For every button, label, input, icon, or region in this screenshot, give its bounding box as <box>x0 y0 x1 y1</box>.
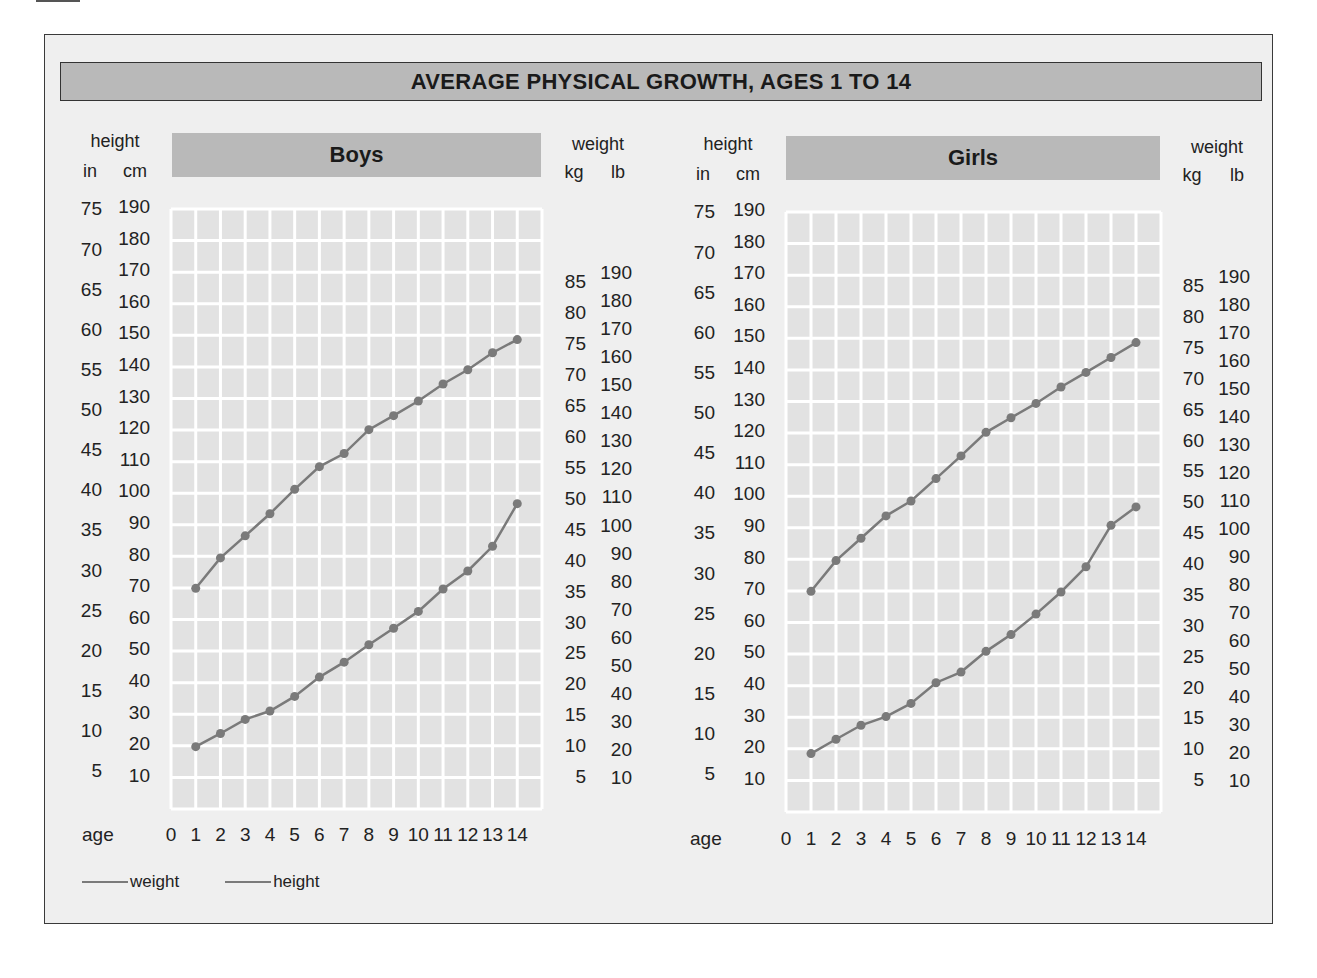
lb-tick: 180 <box>1216 295 1250 315</box>
cm-tick: 140 <box>727 358 765 378</box>
in-tick: 40 <box>689 483 715 503</box>
lb-tick: 80 <box>1216 575 1250 595</box>
boys-lb-unit: lb <box>606 162 630 183</box>
age-tick: 2 <box>824 828 848 850</box>
cm-tick: 30 <box>727 706 765 726</box>
age-tick: 13 <box>481 824 505 846</box>
kg-tick: 30 <box>560 613 586 633</box>
cm-tick: 50 <box>727 642 765 662</box>
in-tick: 35 <box>76 520 102 540</box>
cm-tick: 160 <box>727 295 765 315</box>
kg-tick: 25 <box>560 643 586 663</box>
weight-point <box>807 749 816 758</box>
weight-point <box>364 640 373 649</box>
boys-height-axis-title: height <box>80 131 150 152</box>
cm-tick: 110 <box>727 453 765 473</box>
weight-point <box>216 729 225 738</box>
lb-tick: 120 <box>1216 463 1250 483</box>
cm-tick: 10 <box>727 769 765 789</box>
age-tick: 4 <box>258 824 282 846</box>
cm-tick: 140 <box>112 355 150 375</box>
kg-tick: 50 <box>560 489 586 509</box>
in-tick: 35 <box>689 523 715 543</box>
height-point <box>832 556 841 565</box>
age-tick: 12 <box>456 824 480 846</box>
kg-tick: 15 <box>560 705 586 725</box>
age-tick: 12 <box>1074 828 1098 850</box>
in-tick: 30 <box>689 564 715 584</box>
in-tick: 20 <box>689 644 715 664</box>
in-tick: 5 <box>76 761 102 781</box>
kg-tick: 65 <box>560 396 586 416</box>
girls-header: Girls <box>786 136 1160 180</box>
height-point <box>1132 338 1141 347</box>
cm-tick: 90 <box>727 516 765 536</box>
lb-tick: 50 <box>598 656 632 676</box>
age-tick: 8 <box>974 828 998 850</box>
kg-tick: 50 <box>1178 492 1204 512</box>
lb-tick: 70 <box>598 600 632 620</box>
lb-tick: 90 <box>1216 547 1250 567</box>
weight-point <box>513 499 522 508</box>
height-point <box>265 509 274 518</box>
cm-tick: 100 <box>112 481 150 501</box>
age-tick: 3 <box>233 824 257 846</box>
kg-tick: 70 <box>1178 369 1204 389</box>
age-tick: 1 <box>799 828 823 850</box>
weight-point <box>1107 521 1116 530</box>
lb-tick: 20 <box>598 740 632 760</box>
height-point <box>513 335 522 344</box>
height-point <box>414 397 423 406</box>
height-point <box>1032 399 1041 408</box>
cm-tick: 120 <box>727 421 765 441</box>
age-tick: 10 <box>406 824 430 846</box>
cm-tick: 90 <box>112 513 150 533</box>
weight-point <box>389 624 398 633</box>
weight-point <box>315 673 324 682</box>
cm-tick: 70 <box>112 576 150 596</box>
in-tick: 50 <box>689 403 715 423</box>
kg-tick: 60 <box>1178 431 1204 451</box>
height-point <box>216 553 225 562</box>
height-point <box>1007 413 1016 422</box>
kg-tick: 75 <box>1178 338 1204 358</box>
age-tick: 13 <box>1099 828 1123 850</box>
kg-tick: 45 <box>560 520 586 540</box>
cm-tick: 70 <box>727 579 765 599</box>
lb-tick: 40 <box>598 684 632 704</box>
kg-tick: 75 <box>560 334 586 354</box>
weight-point <box>982 647 991 656</box>
cm-tick: 80 <box>112 545 150 565</box>
age-tick: 7 <box>332 824 356 846</box>
boys-cm-unit: cm <box>118 161 152 182</box>
cm-tick: 180 <box>727 232 765 252</box>
kg-tick: 35 <box>560 582 586 602</box>
in-tick: 25 <box>689 604 715 624</box>
weight-point <box>463 566 472 575</box>
kg-tick: 40 <box>1178 554 1204 574</box>
lb-tick: 50 <box>1216 659 1250 679</box>
girls-weight-axis-title: weight <box>1181 137 1253 158</box>
boys-in-unit: in <box>76 161 104 182</box>
weight-point <box>290 692 299 701</box>
height-point <box>463 365 472 374</box>
cm-tick: 160 <box>112 292 150 312</box>
height-point <box>488 348 497 357</box>
girls-in-unit: in <box>689 164 717 185</box>
cm-tick: 130 <box>112 387 150 407</box>
in-tick: 15 <box>76 681 102 701</box>
lb-tick: 100 <box>598 516 632 536</box>
kg-tick: 85 <box>1178 276 1204 296</box>
height-point <box>389 411 398 420</box>
legend-height-label: height <box>273 872 319 892</box>
lb-tick: 30 <box>1216 715 1250 735</box>
in-tick: 25 <box>76 601 102 621</box>
age-tick: 6 <box>924 828 948 850</box>
cm-tick: 20 <box>727 737 765 757</box>
cm-tick: 110 <box>112 450 150 470</box>
cm-tick: 40 <box>112 671 150 691</box>
lb-tick: 190 <box>598 263 632 283</box>
height-point <box>439 380 448 389</box>
kg-tick: 70 <box>560 365 586 385</box>
kg-tick: 5 <box>560 767 586 787</box>
